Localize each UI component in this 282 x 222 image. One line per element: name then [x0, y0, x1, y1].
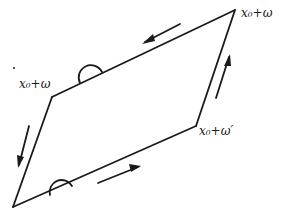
stray-dot — [13, 67, 15, 69]
label-top-right-vertex: x₀+ω — [241, 7, 272, 19]
label-right-vertex: x₀+ω′ — [199, 125, 233, 137]
left-edge — [13, 97, 52, 207]
bottom-edge — [13, 126, 196, 207]
bottom-semicircle-icon — [50, 180, 72, 195]
parallelogram-diagram — [0, 0, 282, 222]
top-arrowhead-icon — [142, 34, 155, 44]
label-left-vertex: x₀+ω — [19, 78, 50, 90]
top-edge — [52, 10, 235, 97]
bottom-arrowhead-icon — [129, 164, 141, 172]
left-arrowhead-icon — [17, 155, 24, 168]
right-arrowhead-icon — [224, 54, 231, 66]
right-edge — [196, 10, 235, 126]
